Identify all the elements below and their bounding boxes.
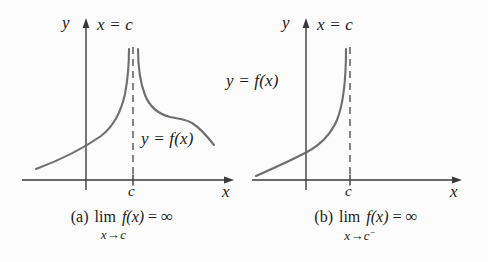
y-axis-label: y <box>62 14 70 31</box>
caption-lim-operator: lim <box>93 208 118 225</box>
curve-label: y = f(x) <box>226 72 279 89</box>
caption-expression: f(x) <box>366 208 388 225</box>
asymptote-label: x = c <box>97 16 133 33</box>
panel-b-plot <box>244 0 488 205</box>
x-axis-label: x <box>222 183 230 200</box>
caption-part-label: (a) <box>71 208 89 225</box>
caption-limit-subscript: x→c <box>101 228 173 241</box>
caption-limit-subscript-text: x→c <box>344 228 369 243</box>
curve-left-branch <box>36 49 129 169</box>
infinite-limits-figure: y x = c c x y = f(x) (a) lim f(x) = ∞ x→… <box>0 0 488 262</box>
panel-a: y x = c c x y = f(x) (a) lim f(x) = ∞ x→… <box>0 0 244 262</box>
panel-b: y x = c c x y = f(x) (b) lim f(x) = ∞ x→… <box>244 0 488 262</box>
tick-label-c: c <box>128 184 135 199</box>
caption-expression: f(x) <box>122 208 144 225</box>
caption-infinity-symbol: ∞ <box>161 207 173 226</box>
asymptote-label: x = c <box>317 16 353 33</box>
curve-left-branch <box>256 49 346 176</box>
y-axis <box>83 18 90 190</box>
caption-infinity-symbol: ∞ <box>406 207 418 226</box>
y-axis-label: y <box>282 14 290 31</box>
caption-lim-operator: lim <box>337 208 362 225</box>
panel-b-caption: (b) lim f(x) = ∞ x→c− <box>244 208 488 243</box>
x-axis-label: x <box>450 183 458 200</box>
y-axis <box>303 18 310 190</box>
caption-limit-subscript: x→c− <box>344 228 417 242</box>
caption-equals: = <box>148 208 157 225</box>
x-axis <box>252 177 462 184</box>
tick-label-c: c <box>345 184 352 199</box>
curve-label: y = f(x) <box>141 130 194 147</box>
panel-a-caption: (a) lim f(x) = ∞ x→c <box>0 208 244 242</box>
caption-limit-subscript-superscript: − <box>370 227 375 237</box>
caption-equals: = <box>393 208 402 225</box>
caption-part-label: (b) <box>314 208 333 225</box>
